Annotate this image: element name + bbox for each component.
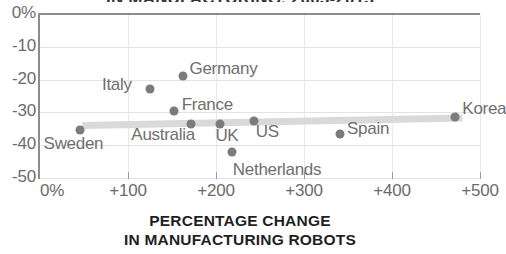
gridline-horizontal	[40, 145, 480, 146]
y-axis-tick-label: -20	[0, 69, 36, 89]
x-axis-tick	[480, 172, 481, 179]
y-axis-tick-label: 0%	[0, 3, 36, 23]
y-axis-tick-label: -50	[0, 167, 36, 187]
chart-title: IN MANUFACTURING, 2005-2015	[0, 0, 480, 2]
data-point-germany[interactable]	[178, 72, 187, 81]
x-axis-tick	[128, 172, 129, 179]
gridline-vertical	[304, 15, 305, 178]
gridline-horizontal	[40, 47, 480, 48]
gridline-horizontal	[40, 112, 480, 113]
x-axis-tick-label: +400	[373, 181, 411, 201]
x-axis-tick-label: 0%	[40, 181, 64, 201]
x-axis-title-line1: PERCENTAGE CHANGE	[0, 211, 480, 230]
y-axis-tick-label: -30	[0, 101, 36, 121]
x-axis-tick	[392, 172, 393, 179]
data-point-korea[interactable]	[451, 113, 460, 122]
data-point-spain[interactable]	[336, 129, 345, 138]
top-axis-line	[38, 13, 480, 15]
data-point-netherlands[interactable]	[227, 147, 236, 156]
data-label-germany: Germany	[190, 59, 258, 79]
data-label-netherlands: Netherlands	[233, 160, 321, 180]
x-axis-tick-label: +100	[109, 181, 147, 201]
gridline-vertical	[392, 15, 393, 178]
x-axis-tick-label: +500	[461, 181, 499, 201]
data-label-italy: Italy	[102, 75, 132, 95]
data-label-france: France	[182, 95, 233, 115]
x-axis-tick	[216, 172, 217, 179]
data-point-italy[interactable]	[146, 85, 155, 94]
y-axis-tick-label: -10	[0, 36, 36, 56]
data-label-uk: UK	[215, 126, 238, 146]
x-axis-title: PERCENTAGE CHANGE IN MANUFACTURING ROBOT…	[0, 211, 480, 249]
data-label-korea: Korea	[462, 99, 506, 119]
data-label-spain: Spain	[347, 119, 389, 139]
data-label-sweden: Sweden	[44, 134, 104, 154]
gridline-vertical	[128, 15, 129, 178]
data-point-france[interactable]	[169, 106, 178, 115]
x-axis-tick-label: +200	[197, 181, 235, 201]
gridline-vertical	[480, 15, 481, 178]
data-label-us: US	[256, 122, 279, 142]
x-axis-title-line2: IN MANUFACTURING ROBOTS	[0, 230, 480, 249]
data-label-australia: Australia	[131, 125, 194, 145]
y-axis-line	[38, 13, 40, 179]
x-axis-tick-label: +300	[285, 181, 323, 201]
y-axis-tick-label: -40	[0, 134, 36, 154]
